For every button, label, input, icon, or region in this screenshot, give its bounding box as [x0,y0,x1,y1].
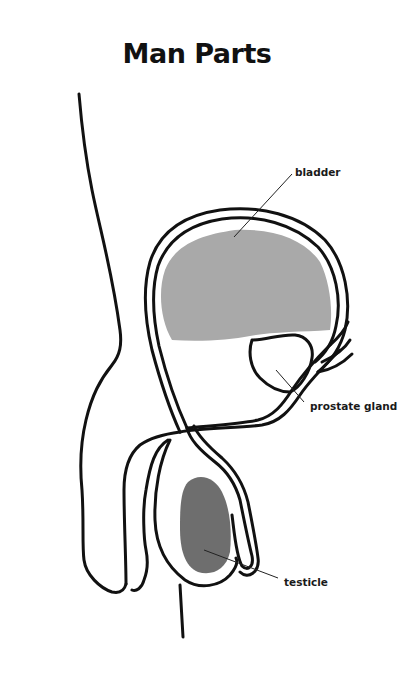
bladder-label: bladder [295,166,341,178]
body-outline [79,94,126,592]
testicle-fill [180,477,231,573]
bladder-fill [161,230,331,341]
testicle-label: testicle [284,576,328,588]
anatomy-diagram [0,0,420,678]
bladder-pointer [234,174,292,237]
prostate-outline [250,335,312,392]
prostate-label: prostate gland [310,400,397,412]
